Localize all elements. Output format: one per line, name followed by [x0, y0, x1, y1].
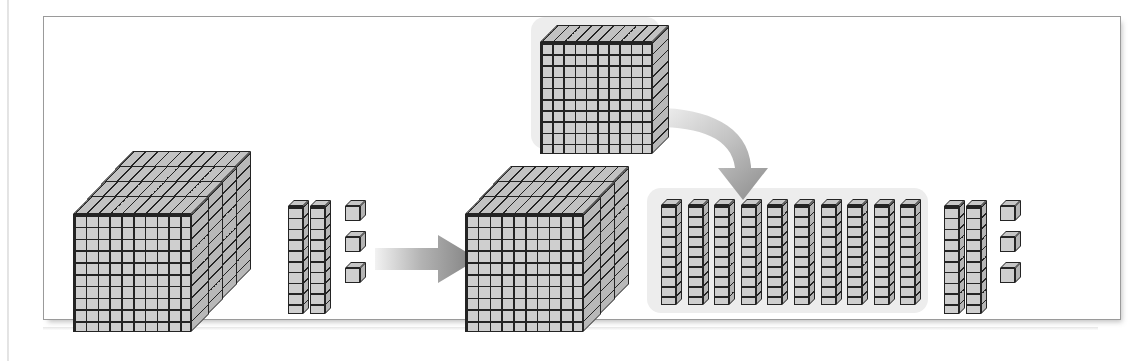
- rod-side-face: [959, 200, 965, 314]
- flat-side-face: [583, 196, 601, 332]
- flat-after-3: [465, 196, 601, 332]
- rod-side-face: [862, 199, 868, 305]
- regroup-arrow: [655, 100, 795, 205]
- unit-before-3: [345, 262, 366, 283]
- figure-canvas: [0, 0, 1131, 361]
- rod-regroup-3: [714, 199, 735, 305]
- rod-side-face: [325, 200, 331, 314]
- rod-front-face: [847, 205, 862, 305]
- rod-side-face: [836, 199, 842, 305]
- unit-side-face: [360, 262, 366, 283]
- flat-side-face: [652, 25, 669, 154]
- rod-regroup-9: [874, 199, 895, 305]
- unit-before-2: [345, 231, 366, 252]
- rod-front-face: [661, 205, 676, 305]
- unit-after-3: [1000, 262, 1021, 283]
- rod-regroup-10: [900, 199, 921, 305]
- rod-front-face: [900, 205, 915, 305]
- rod-before-1: [288, 200, 309, 314]
- flat-side-face: [191, 196, 209, 332]
- flat-top-face: [465, 196, 601, 214]
- rod-regroup-5: [767, 199, 788, 305]
- flat-front-face: [540, 42, 652, 154]
- unit-front-face: [1000, 237, 1015, 252]
- rod-front-face: [944, 206, 959, 314]
- rod-front-face: [966, 206, 981, 314]
- rod-side-face: [889, 199, 895, 305]
- unit-side-face: [360, 231, 366, 252]
- rod-after-1: [944, 200, 965, 314]
- blocks-stage: [0, 0, 1131, 361]
- rod-front-face: [767, 205, 782, 305]
- rod-regroup-6: [794, 199, 815, 305]
- rod-regroup-1: [661, 199, 682, 305]
- rod-front-face: [794, 205, 809, 305]
- flat-before-4: [73, 196, 209, 332]
- unit-front-face: [345, 237, 360, 252]
- unit-front-face: [1000, 268, 1015, 283]
- flat-top-face: [540, 25, 669, 42]
- rod-regroup-2: [688, 199, 709, 305]
- rod-front-face: [821, 205, 836, 305]
- unit-side-face: [1015, 200, 1021, 221]
- rod-front-face: [874, 205, 889, 305]
- rod-side-face: [703, 199, 709, 305]
- rod-side-face: [676, 199, 682, 305]
- flat-front-face: [465, 214, 583, 332]
- rod-front-face: [714, 205, 729, 305]
- flat-regroup-source-1: [540, 25, 669, 154]
- rod-side-face: [729, 199, 735, 305]
- unit-side-face: [1015, 262, 1021, 283]
- rod-side-face: [303, 200, 309, 314]
- rod-side-face: [782, 199, 788, 305]
- rod-before-2: [310, 200, 331, 314]
- rod-front-face: [288, 206, 303, 314]
- unit-after-2: [1000, 231, 1021, 252]
- rod-front-face: [688, 205, 703, 305]
- rod-side-face: [809, 199, 815, 305]
- unit-side-face: [1015, 231, 1021, 252]
- unit-front-face: [345, 206, 360, 221]
- rod-side-face: [915, 199, 921, 305]
- rod-front-face: [310, 206, 325, 314]
- flat-top-face: [73, 196, 209, 214]
- unit-front-face: [1000, 206, 1015, 221]
- unit-front-face: [345, 268, 360, 283]
- rod-regroup-4: [741, 199, 762, 305]
- rod-front-face: [741, 205, 756, 305]
- unit-before-1: [345, 200, 366, 221]
- unit-side-face: [360, 200, 366, 221]
- rod-regroup-7: [821, 199, 842, 305]
- rod-side-face: [981, 200, 987, 314]
- flat-front-face: [73, 214, 191, 332]
- rod-side-face: [756, 199, 762, 305]
- rod-regroup-8: [847, 199, 868, 305]
- unit-after-1: [1000, 200, 1021, 221]
- rod-after-2: [966, 200, 987, 314]
